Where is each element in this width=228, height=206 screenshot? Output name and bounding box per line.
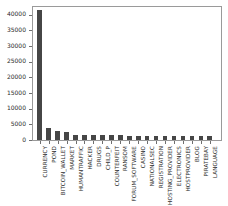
x-axis-tick-mark bbox=[201, 141, 202, 144]
y-axis-tick-label: 25000 bbox=[7, 57, 26, 64]
x-axis-tick-label: BLOG bbox=[194, 146, 200, 162]
x-axis-tick-mark bbox=[129, 141, 130, 144]
bar bbox=[136, 136, 141, 140]
y-axis-tick-label: 30000 bbox=[7, 42, 26, 49]
y-axis-tick-label: 0 bbox=[22, 136, 26, 143]
bar bbox=[91, 135, 96, 140]
bar-slot bbox=[118, 7, 123, 140]
bar bbox=[37, 10, 42, 140]
x-axis-tick-mark bbox=[165, 141, 166, 144]
x-axis-tick-label: DRUGS bbox=[96, 146, 102, 167]
x-axis-tick-label: ELECTRONICS bbox=[176, 146, 182, 186]
bar bbox=[207, 136, 212, 140]
y-axis-tick-mark bbox=[29, 46, 32, 47]
bar bbox=[109, 135, 114, 140]
bar bbox=[55, 131, 60, 140]
bar-slot bbox=[181, 7, 186, 140]
x-axis-tick-label: PIRATEBAY bbox=[203, 146, 209, 177]
bar-slot bbox=[73, 7, 78, 140]
y-axis-tick-mark bbox=[29, 124, 32, 125]
bar bbox=[127, 136, 132, 140]
x-axis-tick-mark bbox=[156, 141, 157, 144]
y-axis-tick-mark bbox=[29, 93, 32, 94]
x-axis-tick-mark bbox=[49, 141, 50, 144]
y-axis-tick-mark bbox=[29, 30, 32, 31]
x-axis-tick-mark bbox=[111, 141, 112, 144]
y-axis-tick-label: 5000 bbox=[11, 120, 26, 127]
bar-slot bbox=[136, 7, 141, 140]
x-axis-tick-label: HUMANTRAFFIC bbox=[78, 146, 84, 191]
x-axis-tick-label: LANGUAGE bbox=[212, 146, 218, 178]
x-axis-tick-mark bbox=[67, 141, 68, 144]
y-axis-tick-label: 35000 bbox=[7, 26, 26, 33]
bar-slot bbox=[91, 7, 96, 140]
x-axis-tick-mark bbox=[183, 141, 184, 144]
chart-figure: 0500010000150002000025000300003500040000… bbox=[0, 0, 228, 206]
bar bbox=[82, 135, 87, 140]
y-axis-tick-mark bbox=[29, 140, 32, 141]
x-axis-tick-mark bbox=[102, 141, 103, 144]
bar-slot bbox=[163, 7, 168, 140]
bar bbox=[163, 136, 168, 140]
bar bbox=[199, 136, 204, 140]
x-axis-tick-label: POND bbox=[51, 146, 57, 163]
x-axis-tick-mark bbox=[40, 141, 41, 144]
bar-slot bbox=[82, 7, 87, 140]
x-axis-tick-mark bbox=[138, 141, 139, 144]
y-axis-tick-mark bbox=[29, 109, 32, 110]
x-axis-tick-mark bbox=[147, 141, 148, 144]
x-axis-tick-label: HACKER bbox=[87, 146, 93, 170]
x-axis-tick-mark bbox=[58, 141, 59, 144]
bar bbox=[118, 135, 123, 140]
y-axis-tick-mark bbox=[29, 62, 32, 63]
x-axis-tick-mark bbox=[174, 141, 175, 144]
bar bbox=[145, 136, 150, 140]
x-axis-tick-label: RANSOM bbox=[122, 146, 128, 171]
x-axis-tick-label: CURRENCY bbox=[42, 146, 48, 178]
x-axis-tick-mark bbox=[84, 141, 85, 144]
x-axis-tick-mark bbox=[192, 141, 193, 144]
x-axis-tick-label: HOSTING_PROVIDER bbox=[167, 146, 173, 205]
y-axis-tick-mark bbox=[29, 15, 32, 16]
y-axis-tick-label: 15000 bbox=[7, 89, 26, 96]
bar-slot bbox=[145, 7, 150, 140]
bar bbox=[181, 136, 186, 140]
bar-slot bbox=[190, 7, 195, 140]
bar bbox=[64, 132, 69, 140]
y-axis-tick-label: 10000 bbox=[7, 104, 26, 111]
bar-slot bbox=[55, 7, 60, 140]
x-axis-tick-mark bbox=[120, 141, 121, 144]
x-axis-tick-label: COUNTERFEIT bbox=[114, 146, 120, 186]
bar bbox=[73, 135, 78, 140]
bar bbox=[190, 136, 195, 140]
bar-slot bbox=[199, 7, 204, 140]
bar-series bbox=[33, 7, 221, 140]
bar bbox=[100, 135, 105, 140]
bar-slot bbox=[100, 7, 105, 140]
x-axis-tick-label: CASINO bbox=[140, 146, 146, 168]
bar bbox=[154, 136, 159, 140]
bar-slot bbox=[207, 7, 212, 140]
bar-slot bbox=[37, 7, 42, 140]
x-axis-tick-label: CHILD_P bbox=[105, 146, 111, 170]
y-axis-tick-label: 40000 bbox=[7, 10, 26, 17]
bar bbox=[46, 128, 51, 140]
x-axis-tick-label: FORUM_SOFTWARE bbox=[131, 146, 137, 202]
x-axis-tick-label: NATIONALSEC bbox=[149, 146, 155, 186]
x-axis-tick-mark bbox=[93, 141, 94, 144]
bar-slot bbox=[109, 7, 114, 140]
x-axis-tick-label: MARKET bbox=[69, 146, 75, 170]
bar-slot bbox=[172, 7, 177, 140]
x-axis-tick-mark bbox=[76, 141, 77, 144]
x-axis-tick-label: REGISTRATION bbox=[158, 146, 164, 188]
x-axis-tick-mark bbox=[210, 141, 211, 144]
y-axis-tick-label: 20000 bbox=[7, 73, 26, 80]
x-axis-tick-label: BITCOIN_WALLET bbox=[60, 146, 66, 195]
bar-slot bbox=[127, 7, 132, 140]
bar-slot bbox=[46, 7, 51, 140]
bar-slot bbox=[154, 7, 159, 140]
y-axis-tick-mark bbox=[29, 77, 32, 78]
x-axis-tick-label: HOSTPROVIDER bbox=[185, 146, 191, 192]
bar bbox=[172, 136, 177, 140]
bar-slot bbox=[64, 7, 69, 140]
